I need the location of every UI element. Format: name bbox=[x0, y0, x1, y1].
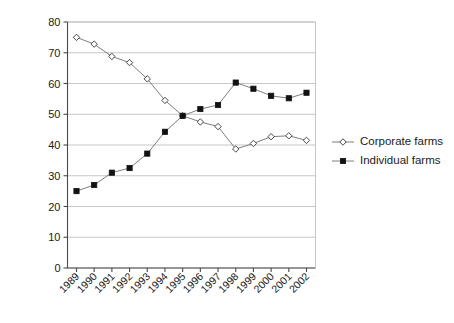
legend-marker bbox=[340, 158, 345, 163]
y-axis-ticks: 01020304050607080 bbox=[48, 16, 67, 274]
data-point bbox=[92, 182, 97, 187]
legend-item[interactable]: Corporate farms bbox=[332, 135, 443, 147]
y-tick-label: 0 bbox=[54, 262, 60, 274]
x-tick-label: 2002 bbox=[286, 270, 311, 295]
data-point bbox=[250, 140, 256, 146]
data-point bbox=[215, 102, 220, 107]
gridlines bbox=[68, 22, 316, 268]
y-tick-label: 40 bbox=[48, 139, 60, 151]
data-point bbox=[198, 106, 203, 111]
chart-container: Share of agric output (%) 01020304050607… bbox=[0, 0, 454, 323]
data-point bbox=[286, 96, 291, 101]
y-tick-label: 50 bbox=[48, 108, 60, 120]
data-point bbox=[286, 133, 292, 139]
data-point bbox=[269, 93, 274, 98]
data-point bbox=[251, 86, 256, 91]
data-point bbox=[304, 90, 309, 95]
data-point bbox=[233, 80, 238, 85]
series-corporate-farms bbox=[73, 34, 309, 152]
data-point bbox=[145, 151, 150, 156]
chart-legend: Corporate farmsIndividual farms bbox=[332, 135, 443, 166]
data-point bbox=[268, 133, 274, 139]
data-point bbox=[109, 53, 115, 59]
legend-item[interactable]: Individual farms bbox=[332, 154, 441, 166]
legend-label: Individual farms bbox=[360, 154, 441, 166]
data-point bbox=[74, 189, 79, 194]
y-tick-label: 20 bbox=[48, 201, 60, 213]
y-tick-label: 60 bbox=[48, 78, 60, 90]
y-tick-label: 80 bbox=[48, 16, 60, 28]
x-axis-ticks: 1989199019911992199319941995199619971998… bbox=[56, 268, 311, 295]
y-tick-label: 30 bbox=[48, 170, 60, 182]
data-point bbox=[180, 113, 185, 118]
data-point bbox=[91, 41, 97, 47]
chart-plot: 01020304050607080 1989199019911992199319… bbox=[0, 0, 454, 323]
data-point bbox=[127, 165, 132, 170]
legend-marker bbox=[340, 139, 346, 145]
data-point bbox=[162, 129, 167, 134]
y-tick-label: 10 bbox=[48, 231, 60, 243]
data-point bbox=[109, 170, 114, 175]
data-point bbox=[197, 119, 203, 125]
legend-label: Corporate farms bbox=[360, 135, 443, 147]
data-point bbox=[303, 137, 309, 143]
y-tick-label: 70 bbox=[48, 47, 60, 59]
data-point bbox=[73, 34, 79, 40]
